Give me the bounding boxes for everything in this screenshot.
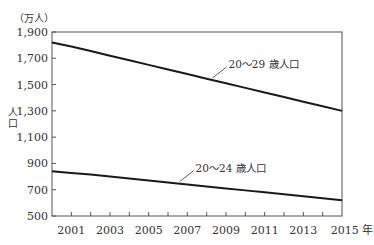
x-tick-label: 2007 <box>173 224 201 237</box>
y-axis-label-char: 口 <box>8 118 18 129</box>
y-tick-label: 700 <box>27 184 48 197</box>
x-tick-label: 2001 <box>57 224 85 237</box>
y-tick-label: 1,100 <box>17 131 49 144</box>
x-tick-label: 2005 <box>135 224 163 237</box>
series-line-1 <box>52 171 342 200</box>
y-tick-label: 1,900 <box>17 26 49 39</box>
series-group: 20～29 歳人口20～24 歳人口 <box>52 43 342 201</box>
y-tick-label: 500 <box>27 210 48 223</box>
x-tick-label: 2015 年 <box>331 223 374 237</box>
y-tick-label: 1,700 <box>17 52 49 65</box>
y-tick-label: 1,500 <box>17 79 49 92</box>
x-tick-label: 2013 <box>289 224 317 237</box>
series-line-0 <box>52 43 342 111</box>
series-label: 20～29 歳人口 <box>228 58 298 70</box>
x-tick-label: 2011 <box>251 224 279 237</box>
x-tick-label: 2003 <box>96 224 124 237</box>
population-line-chart: （万人） 人口 5007009001,1001,3001,5001,7001,9… <box>0 0 374 245</box>
y-tick-label: 1,300 <box>17 105 49 118</box>
y-axis-ticks: 5007009001,1001,3001,5001,7001,900 <box>17 26 57 223</box>
x-tick-label: 2009 <box>212 224 240 237</box>
y-tick-label: 900 <box>27 157 48 170</box>
series-label-leader <box>180 171 194 182</box>
series-label: 20～24 歳人口 <box>196 162 266 174</box>
series-label-leader <box>212 67 226 78</box>
y-unit-label: （万人） <box>14 13 54 24</box>
